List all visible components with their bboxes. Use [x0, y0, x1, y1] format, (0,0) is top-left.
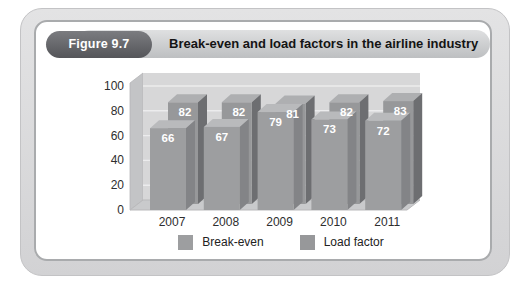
x-axis-tick-label: 2008: [212, 215, 239, 229]
x-axis-tick-label: 2010: [320, 215, 347, 229]
break-even-bar-side: [347, 111, 356, 210]
bar-chart: 0204060801006682200767822008798120097382…: [86, 62, 476, 234]
break-even-value-label: 67: [215, 131, 228, 143]
legend: Break-evenLoad factor: [86, 232, 476, 252]
x-axis-tick-label: 2009: [266, 215, 293, 229]
x-axis-tick-label: 2011: [374, 215, 400, 229]
break-even-value-label: 79: [269, 116, 282, 128]
load-factor-value-label: 82: [179, 106, 192, 118]
break-even-value-label: 73: [323, 123, 336, 135]
load-factor-value-label: 81: [286, 108, 299, 120]
legend-item-1: Load factor: [300, 235, 384, 250]
load-factor-value-label: 82: [232, 106, 245, 118]
y-axis-tick-label: 40: [111, 153, 125, 167]
break-even-value-label: 72: [377, 125, 390, 137]
break-even-value-label: 66: [162, 132, 175, 144]
y-axis-tick-label: 20: [111, 178, 125, 192]
figure-label: Figure 9.7: [68, 37, 129, 51]
y-axis-tick-label: 100: [104, 79, 124, 93]
load-factor-value-label: 82: [340, 106, 353, 118]
y-axis-tick-label: 0: [117, 203, 124, 217]
x-axis-tick-label: 2007: [159, 215, 186, 229]
legend-label: Break-even: [202, 235, 263, 249]
chart-left-wall: [130, 73, 143, 210]
bar-group-2011: 72832011: [365, 93, 422, 229]
y-axis-tick-label: 80: [111, 104, 125, 118]
break-even-bar-side: [401, 113, 410, 210]
break-even-bar-side: [294, 104, 303, 210]
break-even-bar-side: [240, 119, 249, 210]
break-even-bar-side: [186, 120, 195, 210]
legend-label: Load factor: [324, 235, 384, 249]
figure-label-pill: Figure 9.7: [46, 31, 152, 58]
legend-item-0: Break-even: [178, 235, 263, 250]
legend-swatch-icon: [178, 235, 193, 250]
y-axis-tick-label: 60: [111, 129, 125, 143]
figure-card: Break-even and load factors in the airli…: [34, 20, 492, 261]
legend-swatch-icon: [300, 235, 315, 250]
load-factor-bar-side: [413, 93, 422, 204]
load-factor-value-label: 83: [394, 105, 407, 117]
